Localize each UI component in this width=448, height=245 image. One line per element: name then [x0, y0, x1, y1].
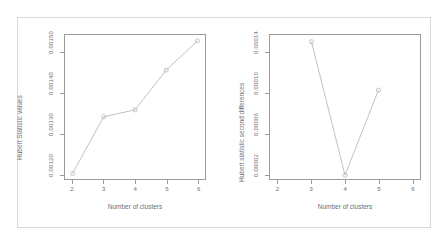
- y-tick-label-right-0: 0.00002: [253, 154, 259, 177]
- y-tick-mark-right-3: [265, 52, 269, 53]
- x-tick-label-right-3: 5: [371, 186, 387, 192]
- x-tick-label-left-0: 2: [64, 186, 80, 192]
- x-tick-mark-right-4: [413, 180, 414, 184]
- y-axis-title-left: Hubert Statistic values: [16, 95, 23, 160]
- x-tick-mark-left-0: [72, 180, 73, 184]
- x-tick-label-left-3: 5: [159, 186, 175, 192]
- plot-area-left: [64, 34, 206, 180]
- x-tick-label-left-2: 4: [127, 186, 143, 192]
- x-tick-mark-left-1: [103, 180, 104, 184]
- x-axis-title-right: Number of clusters: [270, 203, 420, 210]
- x-tick-mark-right-0: [277, 180, 278, 184]
- y-tick-mark-left-3: [60, 52, 64, 53]
- x-tick-label-right-1: 3: [303, 186, 319, 192]
- plot-lines-right: [270, 35, 420, 179]
- x-tick-mark-left-2: [135, 180, 136, 184]
- y-tick-label-left-1: 0.00130: [48, 113, 54, 136]
- plot-lines-left: [65, 35, 205, 179]
- x-tick-label-right-2: 4: [337, 186, 353, 192]
- x-tick-label-left-4: 6: [191, 186, 207, 192]
- y-tick-mark-left-0: [60, 175, 64, 176]
- y-tick-label-right-3: 0.00014: [253, 31, 259, 54]
- series-line: [312, 42, 379, 175]
- figure-container: 0.00120 0.00130 0.00140 0.00150 Hubert S…: [0, 0, 448, 245]
- x-tick-mark-right-2: [345, 180, 346, 184]
- series-line: [73, 41, 198, 174]
- x-tick-mark-right-3: [379, 180, 380, 184]
- x-axis-title-left: Number of clusters: [65, 203, 205, 210]
- y-tick-mark-right-0: [265, 175, 269, 176]
- y-tick-label-right-1: 0.00006: [253, 113, 259, 136]
- x-tick-mark-right-1: [311, 180, 312, 184]
- y-tick-label-right-2: 0.00010: [253, 72, 259, 95]
- chart-panel-right: 0.00002 0.00006 0.00010 0.00014 Hubert s…: [224, 17, 448, 228]
- y-axis-title-right: Hubert statistic second differences: [238, 83, 245, 182]
- y-tick-mark-right-2: [265, 93, 269, 94]
- x-tick-mark-left-4: [198, 180, 199, 184]
- y-tick-label-left-2: 0.00140: [48, 72, 54, 95]
- chart-panel-left: 0.00120 0.00130 0.00140 0.00150 Hubert S…: [0, 17, 224, 228]
- y-tick-mark-left-1: [60, 134, 64, 135]
- plot-area-right: [269, 34, 421, 180]
- y-tick-label-left-3: 0.00150: [48, 31, 54, 54]
- y-tick-mark-left-2: [60, 93, 64, 94]
- x-tick-label-right-4: 6: [405, 186, 421, 192]
- y-tick-label-left-0: 0.00120: [48, 154, 54, 177]
- x-tick-label-left-1: 3: [96, 186, 112, 192]
- x-tick-mark-left-3: [167, 180, 168, 184]
- y-tick-mark-right-1: [265, 134, 269, 135]
- x-tick-label-right-0: 2: [270, 186, 286, 192]
